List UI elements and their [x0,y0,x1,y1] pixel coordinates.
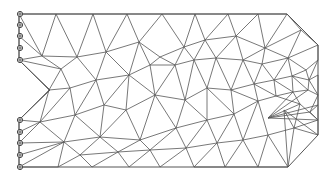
mesh-edge [49,88,70,90]
mesh-edge [310,95,318,112]
mesh-edge [175,47,184,65]
mesh-edge [243,135,268,140]
mesh-edge [284,110,318,135]
pin-support-icon [17,152,22,157]
mesh-edge [294,104,300,128]
mesh-edge [126,110,140,140]
mesh-edge [309,60,318,80]
mesh-edge [77,14,93,57]
mesh-edge [258,135,268,167]
mesh-edge [185,88,207,100]
mesh-edge [268,118,318,120]
mesh-edge [42,56,77,57]
mesh-edge [185,60,194,100]
mesh-edge [92,152,118,167]
mesh-edge [274,80,293,92]
mesh-edge [40,122,64,142]
mesh-edge [64,115,75,142]
mesh-edge [155,95,185,100]
mesh-edge [160,148,186,167]
mesh-edge [236,14,258,36]
mesh-edge [294,120,318,128]
mesh-edge [268,135,288,167]
mesh-edge [262,64,274,80]
mesh-edge [42,14,56,56]
mesh-edge [194,60,207,88]
mesh-svg [0,0,336,180]
mesh-edges [19,14,318,167]
mesh-edge [77,52,106,57]
mesh-edge [160,57,175,65]
mesh-edge [150,65,155,95]
mesh-edge [194,58,216,60]
mesh-edge [217,140,243,143]
pin-support-icon [17,140,22,145]
mesh-edge [274,76,292,80]
mesh-edge [231,84,254,90]
mesh-edge [139,14,162,42]
mesh-edge [186,143,217,148]
pin-support-icon [17,45,22,50]
mesh-edge [217,114,234,143]
mesh-edge [225,140,243,167]
mesh-edge [61,57,77,69]
boundary-supports [17,11,22,169]
mesh-edge [80,155,92,167]
mesh-edge [194,143,217,167]
mesh-edge [162,14,184,47]
mesh-edge [292,76,293,92]
mesh-edge [19,142,64,167]
mesh-edge [274,58,288,80]
mesh-edge [106,52,129,75]
mesh-edge [61,69,70,88]
mesh-edge [236,36,265,48]
mesh-edge [184,14,195,47]
mesh-edge [126,75,129,110]
mesh-edge [306,70,309,80]
mesh-edge [80,152,118,155]
mesh-edge [129,65,150,75]
mesh-edge [288,45,318,58]
mesh-edge [93,14,106,52]
mesh-edge [58,142,64,167]
mesh-edge [234,114,243,140]
mesh-edge [19,142,64,155]
mesh-edge [276,92,293,96]
mesh-edge [127,14,139,42]
mesh-edge [268,128,294,135]
mesh-edge [96,52,106,80]
mesh-edge [75,105,104,115]
mesh-edge [150,128,176,150]
mesh-edge [205,14,228,40]
pin-support-icon [17,57,22,62]
mesh-edge [96,75,129,80]
mesh-edge [231,90,234,114]
mesh-edge [96,80,104,105]
mesh-edge [185,100,207,120]
mesh-edge [207,58,216,88]
mesh-edge [100,137,118,152]
pin-support-icon [17,117,22,122]
mesh-edge [160,47,184,57]
mesh-edge [265,48,288,58]
mesh-edge [258,101,268,135]
pin-support-icon [17,22,22,27]
mesh-edge [140,140,150,150]
mesh-edge [19,36,42,56]
mesh-edge [205,40,216,58]
mesh-edge [268,90,308,118]
mesh-edge [100,137,140,140]
mesh-edge [258,14,265,48]
mesh-edge [262,58,288,64]
mesh-edge [184,47,194,60]
mesh-edge [254,84,258,101]
mesh-edge [104,75,129,105]
mesh-edge [150,150,160,167]
mesh-edge [56,14,77,57]
mesh-edge [70,88,75,115]
mesh-edge [118,152,129,167]
mesh-edge [104,105,126,110]
mesh-edge [77,57,96,80]
mesh-edge [216,58,243,60]
mesh-edge [64,142,80,155]
